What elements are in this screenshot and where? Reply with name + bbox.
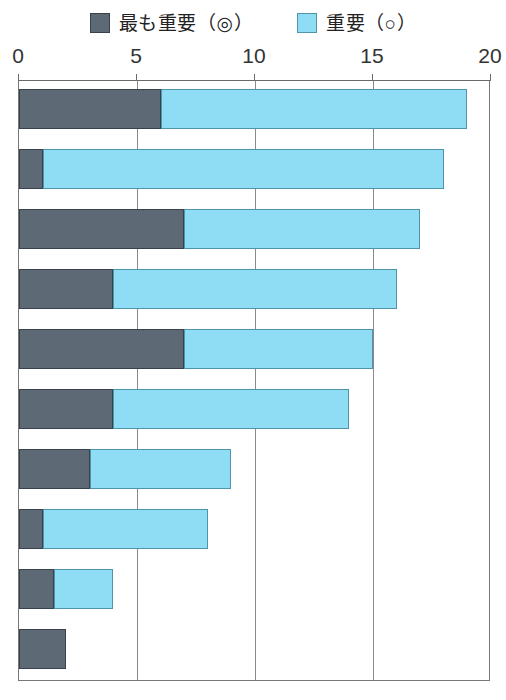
bar-segment-most-important[interactable] [19, 269, 113, 309]
bar-segment-most-important[interactable] [19, 569, 54, 609]
x-axis-tick-20 [490, 74, 491, 81]
plot-area [18, 81, 490, 681]
bar-segment-most-important[interactable] [19, 509, 43, 549]
x-axis-tick-5 [136, 74, 137, 81]
bar-segment-most-important[interactable] [19, 89, 161, 129]
x-axis-tick-15 [372, 74, 373, 81]
bar-row[interactable] [19, 629, 489, 669]
x-axis-label-15: 15 [360, 44, 383, 68]
x-axis-label-5: 5 [130, 44, 142, 68]
bar-segment-important[interactable] [43, 509, 208, 549]
legend-label-important: 重要（○） [326, 14, 416, 33]
bar-row[interactable] [19, 209, 489, 249]
bar-segment-most-important[interactable] [19, 209, 184, 249]
bar-segment-important[interactable] [54, 569, 113, 609]
legend-item-most-important: 最も重要（◎） [90, 13, 253, 33]
bar-row[interactable] [19, 569, 489, 609]
bar-segment-most-important[interactable] [19, 149, 43, 189]
bar-segment-important[interactable] [184, 329, 373, 369]
bar-segment-important[interactable] [184, 209, 420, 249]
bar-segment-most-important[interactable] [19, 329, 184, 369]
bar-segment-important[interactable] [113, 389, 349, 429]
stacked-bar-chart: 最も重要（◎） 重要（○） 05101520 [0, 0, 506, 700]
x-axis-tick-10 [254, 74, 255, 81]
x-axis-label-0: 0 [12, 44, 24, 68]
bar-row[interactable] [19, 149, 489, 189]
legend-label-most-important: 最も重要（◎） [119, 14, 253, 33]
x-axis-tick-0 [18, 74, 19, 81]
chart-legend: 最も重要（◎） 重要（○） [0, 4, 506, 42]
bar-segment-important[interactable] [90, 449, 232, 489]
legend-swatch-important-icon [297, 13, 317, 33]
bar-segment-most-important[interactable] [19, 629, 66, 669]
bar-segment-most-important[interactable] [19, 449, 90, 489]
legend-item-important: 重要（○） [297, 13, 416, 33]
bar-row[interactable] [19, 509, 489, 549]
x-axis-label-20: 20 [478, 44, 501, 68]
bar-segment-most-important[interactable] [19, 389, 113, 429]
bar-segment-important[interactable] [113, 269, 396, 309]
bar-row[interactable] [19, 329, 489, 369]
x-axis-label-10: 10 [242, 44, 265, 68]
bar-row[interactable] [19, 389, 489, 429]
bar-segment-important[interactable] [43, 149, 444, 189]
x-axis-tick-labels: 05101520 [0, 44, 506, 70]
legend-swatch-most-important-icon [90, 13, 110, 33]
bar-row[interactable] [19, 89, 489, 129]
bar-segment-important[interactable] [161, 89, 468, 129]
bar-rows [19, 81, 489, 680]
bar-row[interactable] [19, 449, 489, 489]
bar-row[interactable] [19, 269, 489, 309]
